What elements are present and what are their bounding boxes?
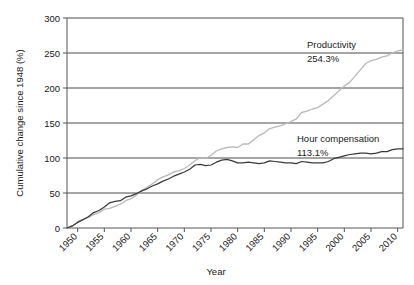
y-tick-label-200: 200 (44, 83, 60, 94)
hour-compensation-annotation-value: 113.1% (297, 147, 329, 158)
y-tick-label-0: 0 (55, 223, 60, 234)
x-tick-label-1980: 1980 (216, 231, 239, 254)
x-tick-label-1960: 1960 (110, 231, 133, 254)
x-tick-label-2010: 2010 (376, 231, 399, 254)
chart-svg: 050100150200250300 195019551960196519701… (0, 0, 414, 285)
y-tick-label-50: 50 (49, 188, 60, 199)
x-tick-label-1955: 1955 (83, 231, 106, 254)
y-tick-label-100: 100 (44, 153, 60, 164)
y-axis-title: Cumulative change since 1948 (%) (14, 49, 25, 196)
x-tick-label-2005: 2005 (350, 231, 373, 254)
y-tick-label-300: 300 (44, 13, 60, 24)
y-axis-ticks-group: 050100150200250300 (44, 13, 67, 234)
x-tick-label-1965: 1965 (136, 231, 159, 254)
x-tick-label-1995: 1995 (296, 231, 319, 254)
x-axis-ticks-group: 1950195519601965197019751980198519901995… (56, 228, 399, 253)
chart-figure: 050100150200250300 195019551960196519701… (0, 0, 414, 285)
x-tick-label-2000: 2000 (323, 231, 346, 254)
x-tick-label-1950: 1950 (56, 231, 79, 254)
y-tick-label-150: 150 (44, 118, 60, 129)
hour-compensation-annotation-label: Hour compensation (297, 133, 379, 144)
productivity-annotation-value: 254.3% (307, 53, 340, 64)
x-axis-title: Year (206, 266, 225, 277)
productivity-annotation-label: Productivity (307, 39, 356, 50)
x-tick-label-1985: 1985 (243, 231, 266, 254)
x-tick-label-1970: 1970 (163, 231, 186, 254)
x-tick-label-1990: 1990 (270, 231, 293, 254)
y-tick-label-250: 250 (44, 48, 60, 59)
x-tick-label-1975: 1975 (190, 231, 213, 254)
